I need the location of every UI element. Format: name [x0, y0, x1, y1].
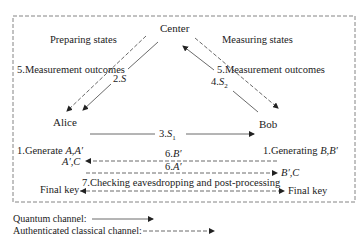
label-7-checking: 7.Checking eavesdropping and post-proces…	[82, 177, 280, 189]
node-bob: Bob	[259, 118, 277, 130]
region-measuring-states: Measuring states	[222, 34, 293, 46]
bob-generating: 1.Generating B,B′	[263, 145, 338, 157]
bob-received: B′,C	[281, 167, 299, 179]
protocol-diagram: Center Alice Bob Preparing states Measur…	[0, 0, 360, 240]
alice-received: A′,C	[62, 156, 80, 168]
bob-final-key: Final key	[288, 185, 327, 197]
region-preparing-states: Preparing states	[50, 34, 117, 46]
label-6-b-prime: 6.B′	[165, 148, 182, 160]
label-4-s2: 4.S2	[211, 76, 228, 92]
legend-quantum-label: Quantum channel:	[13, 213, 87, 225]
label-3-s1: 3.S1	[159, 128, 176, 144]
alice-final-key: Final key	[40, 184, 79, 196]
node-alice: Alice	[53, 116, 77, 128]
label-6-a-prime: 6.A′	[165, 161, 182, 173]
legend-classical-label: Authenticated classical channel:	[13, 225, 142, 237]
label-left-measurement-outcomes: 5.Measurement outcomes	[17, 64, 125, 76]
label-2-s: 2.S	[113, 73, 126, 85]
node-center: Center	[160, 22, 189, 34]
label-right-measurement-outcomes: 5.Measurement outcomes	[217, 64, 325, 76]
